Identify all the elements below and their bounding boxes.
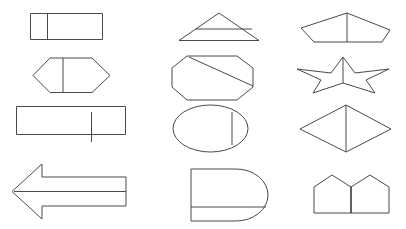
rectangle-outline xyxy=(31,14,103,40)
pentagon-outline xyxy=(301,13,390,42)
triangle-outline xyxy=(179,13,259,41)
pentagon-with-vertical-divider-svg xyxy=(300,12,392,44)
pentagon-left-outline xyxy=(314,175,351,213)
ellipse-with-vertical-chord-svg xyxy=(172,104,250,153)
ellipse-outline xyxy=(173,105,248,152)
triangle-with-horizontal-divider-svg xyxy=(178,12,264,42)
octagon-outline xyxy=(172,56,253,100)
rectangle-with-vertical-divider-svg xyxy=(30,13,103,40)
double-pentagon-pair-svg xyxy=(313,174,391,215)
hexagon-with-vertical-divider-svg xyxy=(32,57,111,94)
shape-d-shape-with-horizontal-divider xyxy=(190,168,270,223)
figure-sheet xyxy=(0,0,406,229)
octagon-with-diagonal-divider-svg xyxy=(171,55,254,101)
shape-ellipse-with-vertical-chord xyxy=(172,104,250,153)
shape-grid xyxy=(0,0,406,229)
shape-rhombus-with-vertical-divider xyxy=(299,104,393,153)
hexagon-outline xyxy=(33,58,110,93)
shape-pentagon-with-vertical-divider xyxy=(300,12,392,44)
shape-rectangle-with-vertical-divider xyxy=(30,13,103,40)
shape-triangle-with-horizontal-divider xyxy=(178,12,264,42)
shape-octagon-with-diagonal-divider xyxy=(171,55,254,101)
shape-left-arrow-with-horizontal-divider xyxy=(11,163,128,220)
left-arrow-with-horizontal-divider-svg xyxy=(11,163,128,220)
wide-rectangle-with-vertical-divider-svg xyxy=(16,106,128,143)
star-with-vertical-divider-svg xyxy=(296,56,390,94)
pentagon-right-outline xyxy=(351,175,389,213)
d-shape-with-horizontal-divider-svg xyxy=(190,168,270,223)
shape-hexagon-with-vertical-divider xyxy=(32,57,111,94)
shape-double-pentagon-pair xyxy=(313,174,391,215)
shape-star-with-vertical-divider xyxy=(296,56,390,94)
shape-wide-rectangle-with-vertical-divider xyxy=(16,106,128,143)
d-shape-outline xyxy=(191,169,268,221)
wide-rectangle-outline xyxy=(17,107,126,135)
rhombus-with-vertical-divider-svg xyxy=(299,104,393,153)
